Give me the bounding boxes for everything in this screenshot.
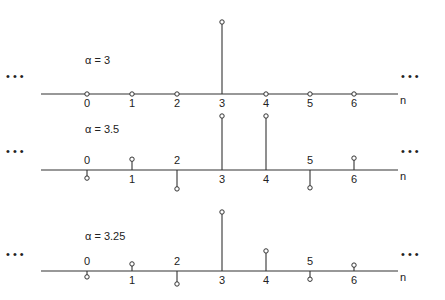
- ellipsis-left: • • •: [6, 248, 24, 260]
- tick-label-3: 3: [219, 274, 225, 286]
- tick-label-3: 3: [219, 97, 225, 109]
- stem-marker: [175, 92, 179, 96]
- tick-label-4: 4: [263, 97, 269, 109]
- stem-marker: [85, 176, 89, 180]
- stem-marker: [264, 249, 268, 253]
- stem-marker: [130, 92, 134, 96]
- stem-marker: [175, 282, 179, 286]
- stem-marker: [85, 275, 89, 279]
- tick-label-5: 5: [307, 154, 313, 166]
- alpha-label: α = 3.25: [85, 230, 125, 242]
- axis-label-n: n: [400, 170, 406, 182]
- stem-marker: [220, 114, 224, 118]
- tick-label-5: 5: [307, 255, 313, 267]
- stem-marker: [264, 114, 268, 118]
- stem-marker: [352, 92, 356, 96]
- ellipsis-right: • • •: [401, 145, 419, 157]
- stem-plots-diagram: n• • •• • •α = 30123456n• • •• • •α = 3.…: [0, 0, 445, 300]
- stem-plot-panel-1: n• • •• • •α = 30123456: [6, 20, 419, 109]
- tick-label-1: 1: [129, 173, 135, 185]
- stem-marker: [220, 20, 224, 24]
- stem-marker: [175, 187, 179, 191]
- tick-label-0: 0: [84, 154, 90, 166]
- stem-marker: [352, 156, 356, 160]
- tick-label-5: 5: [307, 97, 313, 109]
- tick-label-1: 1: [129, 97, 135, 109]
- tick-label-3: 3: [219, 173, 225, 185]
- tick-label-4: 4: [263, 173, 269, 185]
- tick-label-2: 2: [174, 154, 180, 166]
- stem-marker: [308, 186, 312, 190]
- tick-label-1: 1: [129, 274, 135, 286]
- tick-label-6: 6: [351, 97, 357, 109]
- stem-marker: [130, 262, 134, 266]
- ellipsis-right: • • •: [401, 70, 419, 82]
- tick-label-4: 4: [263, 274, 269, 286]
- tick-label-0: 0: [84, 255, 90, 267]
- stem-marker: [85, 92, 89, 96]
- axis-label-n: n: [400, 271, 406, 283]
- ellipsis-left: • • •: [6, 145, 24, 157]
- stem-plot-panel-3: n• • •• • •α = 3.250123456: [6, 210, 419, 286]
- stem-marker: [264, 92, 268, 96]
- axis-label-n: n: [400, 94, 406, 106]
- stem-marker: [220, 210, 224, 214]
- alpha-label: α = 3.5: [85, 123, 119, 135]
- stem-marker: [130, 157, 134, 161]
- stem-plot-panel-2: n• • •• • •α = 3.50123456: [6, 114, 419, 191]
- stem-marker: [308, 277, 312, 281]
- tick-label-0: 0: [84, 97, 90, 109]
- ellipsis-left: • • •: [6, 70, 24, 82]
- tick-label-6: 6: [351, 173, 357, 185]
- tick-label-2: 2: [174, 97, 180, 109]
- stem-marker: [352, 263, 356, 267]
- tick-label-6: 6: [351, 274, 357, 286]
- tick-label-2: 2: [174, 255, 180, 267]
- stem-marker: [308, 92, 312, 96]
- ellipsis-right: • • •: [401, 248, 419, 260]
- alpha-label: α = 3: [85, 54, 110, 66]
